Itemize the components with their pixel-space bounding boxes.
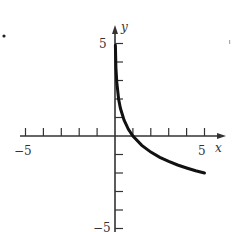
graph: y x 5 −5 −5 5 xyxy=(0,0,240,232)
x-axis xyxy=(20,133,226,139)
y-axis-label: y xyxy=(120,20,128,34)
x-tick-label-neg5: −5 xyxy=(14,144,32,158)
y-tick-label-5: 5 xyxy=(99,37,107,51)
x-axis-label: x xyxy=(215,141,222,155)
stray-mark xyxy=(229,40,230,44)
y-axis-arrow-icon xyxy=(112,25,118,34)
x-axis-arrow-icon xyxy=(217,133,226,139)
x-tick-label-5: 5 xyxy=(198,144,206,158)
y-tick-label-neg5: −5 xyxy=(93,221,111,232)
function-curve xyxy=(115,45,204,173)
stray-dot xyxy=(2,34,5,37)
